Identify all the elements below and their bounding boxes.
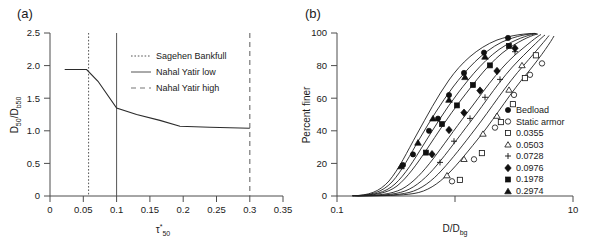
legend-marker-bedload: [505, 107, 510, 112]
legend-label-0-0728: 0.0728: [516, 151, 544, 161]
legend-label-0-0976: 0.0976: [516, 163, 544, 173]
figure-container: (a) 0 0.5 1.0 1.5 2.0 2.5: [0, 0, 597, 241]
panel-a-ytick-4: 2.0: [27, 60, 40, 71]
panel-b-ytick-1: 20: [316, 158, 327, 169]
panel-a-svg: (a) 0 0.5 1.0 1.5 2.0 2.5: [0, 0, 300, 241]
panel-a-xtick-6: 0.3: [243, 204, 256, 215]
panel-a-data-curve: [65, 70, 250, 129]
marker-group-0-0728: [437, 49, 518, 166]
legend-marker-0-0976: [505, 164, 511, 171]
legend-label-0-0355: 0.0355: [516, 128, 544, 138]
panel-a-xtick-3: 0.15: [141, 204, 160, 215]
panel-a-x-tick-labels: 0 0.05 0.1 0.15 0.2 0.25 0.3 0.35: [47, 204, 292, 215]
panel-b-y-axis-title: Percent finer: [301, 86, 312, 143]
panel-b-xtick-0: 0.1: [330, 204, 343, 215]
panel-a-xtick-2: 0.1: [110, 204, 123, 215]
panel-a-ytick-2: 1.0: [27, 125, 40, 136]
marker-group-bedload: [400, 35, 510, 167]
svg-text:D50/Db50: D50/Db50: [9, 97, 22, 134]
svg-text:D/Dbg: D/Dbg: [442, 223, 467, 237]
legend-marker-0-0728: [505, 153, 511, 159]
panel-a-y-axis-title: D50/Db50: [9, 97, 22, 134]
panel-a-ytick-0: 0: [35, 190, 40, 201]
panel-b-label: (b): [305, 6, 321, 21]
legend-marker-0-0503: [505, 142, 511, 147]
legend-label-0-2974: 0.2974: [516, 186, 544, 196]
panel-a-ytick-1: 0.5: [27, 158, 40, 169]
panel-a: (a) 0 0.5 1.0 1.5 2.0 2.5: [0, 0, 300, 241]
panel-b-xtick-1: 10: [568, 204, 579, 215]
legend-label-bedload: Bedload: [516, 105, 549, 115]
panel-a-x-axis-title: τ*50: [156, 223, 171, 237]
panel-a-y-tick-labels: 0 0.5 1.0 1.5 2.0 2.5: [27, 27, 40, 201]
panel-b-y-tick-labels: 0 20 40 60 80 100: [311, 27, 327, 201]
panel-b-ytick-5: 100: [311, 27, 327, 38]
panel-b-x-ticks: [337, 196, 573, 202]
legend-label-sagehen-bankfull: Sagehen Bankfull: [156, 51, 227, 61]
legend-label-nahal-yatir-high: Nahal Yatir high: [156, 83, 219, 93]
panel-a-ytick-5: 2.5: [27, 27, 40, 38]
panel-a-xtick-0: 0: [47, 204, 52, 215]
svg-text:τ*50: τ*50: [156, 223, 171, 237]
panel-a-label: (a): [17, 6, 33, 21]
panel-b: (b) 0 20 40 60 80 100: [297, 0, 597, 241]
panel-b-ytick-3: 60: [316, 93, 327, 104]
panel-b-y-ticks: [331, 33, 337, 196]
panel-b-ytick-4: 80: [316, 60, 327, 71]
panel-a-xtick-1: 0.05: [74, 204, 93, 215]
legend-marker-static-armor: [505, 119, 510, 124]
legend-label-static-armor: Static armor: [516, 117, 565, 127]
legend-label-nahal-yatir-low: Nahal Yatir low: [156, 67, 216, 77]
legend-marker-0-1978: [506, 177, 511, 182]
marker-group-0-0503: [444, 62, 525, 177]
legend-label-0-1978: 0.1978: [516, 174, 544, 184]
legend-label-0-0503: 0.0503: [516, 140, 544, 150]
marker-group-0-2974: [398, 54, 489, 169]
panel-a-legend: Sagehen Bankfull Nahal Yatir low Nahal Y…: [131, 51, 227, 93]
marker-group-0-0976: [429, 45, 518, 158]
legend-marker-0-2974: [505, 188, 512, 194]
panel-a-ytick-3: 1.5: [27, 93, 40, 104]
legend-marker-0-0355: [505, 130, 510, 135]
panel-a-xtick-5: 0.25: [207, 204, 226, 215]
panel-a-x-ticks: [50, 196, 283, 202]
panel-b-y-axis-title-text: Percent finer: [301, 86, 312, 143]
panel-b-svg: (b) 0 20 40 60 80 100: [297, 0, 597, 241]
panel-b-ytick-2: 40: [316, 125, 327, 136]
panel-a-xtick-7: 0.35: [274, 204, 293, 215]
panel-b-x-axis-title: D/Dbg: [442, 223, 467, 237]
panel-a-y-ticks: [44, 33, 50, 196]
panel-b-ytick-0: 0: [322, 190, 327, 201]
panel-a-xtick-4: 0.2: [177, 204, 190, 215]
panel-b-x-tick-labels: 0.1 10: [330, 204, 578, 215]
panel-b-legend: Bedload Static armor 0.0355 0.0503 0.072…: [505, 105, 565, 196]
